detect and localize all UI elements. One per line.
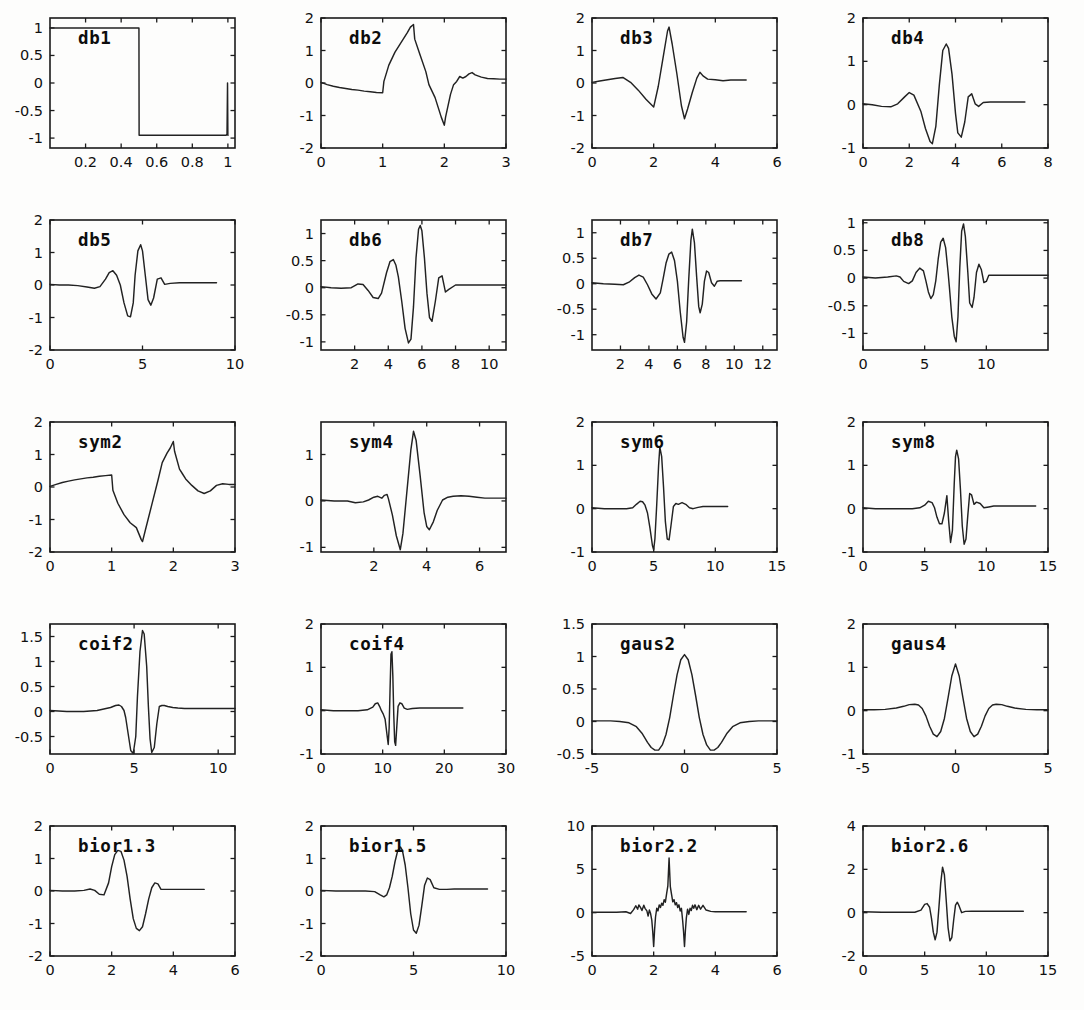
x-tick-label: 6 xyxy=(673,356,682,372)
y-tick-label: 0 xyxy=(576,75,585,91)
data-curve xyxy=(863,664,1048,737)
chart-panel-gaus4: -505-1012gaus4 xyxy=(813,606,1084,808)
x-tick-label: 0 xyxy=(45,558,54,574)
x-tick-label: 0 xyxy=(680,760,689,776)
chart-panel-db7: 24681012-1-0.500.51db7 xyxy=(542,202,813,404)
x-tick-label: 30 xyxy=(497,760,515,776)
y-tick-label: 0 xyxy=(576,276,585,292)
y-tick-label: -0.5 xyxy=(557,746,585,762)
x-tick-label: 10 xyxy=(706,558,724,574)
x-tick-label: 0 xyxy=(316,154,325,170)
plot-title-label: db4 xyxy=(891,28,924,48)
y-tick-label: 0 xyxy=(305,280,314,296)
y-tick-label: 0 xyxy=(847,703,856,719)
x-tick-label: 0 xyxy=(45,356,54,372)
plot-title-label: bior1.5 xyxy=(349,836,427,856)
data-curve xyxy=(50,245,217,317)
y-tick-label: 1 xyxy=(34,851,43,867)
y-tick-label: 0 xyxy=(34,883,43,899)
y-tick-label: 1 xyxy=(34,245,43,261)
chart-panel-coif2: 0510-0.500.511.5coif2 xyxy=(0,606,271,808)
y-tick-label: -1 xyxy=(571,544,585,560)
wavelet-plot-grid: 0.20.40.60.81-1-0.500.51db10123-2-1012db… xyxy=(0,0,1084,1010)
y-tick-label: -2 xyxy=(300,948,314,964)
x-tick-label: 8 xyxy=(1043,154,1052,170)
y-tick-label: 1 xyxy=(34,20,43,36)
x-tick-label: 0 xyxy=(858,154,867,170)
plot-title-label: sym4 xyxy=(349,432,394,452)
y-tick-label: -1 xyxy=(842,544,856,560)
x-tick-label: -5 xyxy=(856,760,870,776)
x-tick-label: 3 xyxy=(230,558,239,574)
chart-panel-sym2: 0123-2-1012sym2 xyxy=(0,404,271,606)
x-tick-label: 10 xyxy=(497,962,515,978)
y-tick-label: 2 xyxy=(34,818,43,834)
data-curve xyxy=(50,850,204,930)
x-tick-label: 2 xyxy=(169,558,178,574)
x-tick-label: 0.4 xyxy=(110,154,133,170)
x-tick-label: 6 xyxy=(772,962,781,978)
x-tick-label: 0 xyxy=(951,760,960,776)
data-curve xyxy=(50,28,228,135)
x-tick-label: 4 xyxy=(951,154,960,170)
y-tick-label: -0.5 xyxy=(286,307,314,323)
y-tick-label: 0 xyxy=(305,493,314,509)
y-tick-label: -0.5 xyxy=(828,298,856,314)
chart-panel-coif4: 0102030-1012coif4 xyxy=(271,606,542,808)
data-curve xyxy=(863,450,1036,544)
x-tick-label: 10 xyxy=(373,760,391,776)
x-tick-label: 5 xyxy=(138,356,147,372)
x-tick-label: 10 xyxy=(977,558,995,574)
y-tick-label: 2 xyxy=(34,414,43,430)
y-tick-label: 1 xyxy=(305,851,314,867)
x-tick-label: 4 xyxy=(422,558,431,574)
plot-title-label: sym2 xyxy=(78,432,123,452)
y-tick-label: -1 xyxy=(842,746,856,762)
y-tick-label: 0.5 xyxy=(20,679,43,695)
y-tick-label: 1 xyxy=(847,659,856,675)
plot-title-label: db6 xyxy=(349,230,382,250)
y-tick-label: -1 xyxy=(29,130,43,146)
x-tick-label: 2 xyxy=(905,154,914,170)
y-tick-label: -1 xyxy=(300,539,314,555)
y-tick-label: -2 xyxy=(571,140,585,156)
y-tick-label: 1.5 xyxy=(562,616,585,632)
x-tick-label: 10 xyxy=(977,356,995,372)
data-curve xyxy=(321,847,488,933)
y-tick-label: 0 xyxy=(305,703,314,719)
y-tick-label: 1 xyxy=(305,43,314,59)
x-tick-label: -5 xyxy=(585,760,599,776)
y-tick-label: -1 xyxy=(300,334,314,350)
x-tick-label: 10 xyxy=(977,962,995,978)
x-tick-label: 5 xyxy=(409,962,418,978)
x-tick-label: 15 xyxy=(768,558,786,574)
y-tick-label: 0.5 xyxy=(291,253,314,269)
y-tick-label: 0 xyxy=(34,704,43,720)
chart-panel-db6: 246810-1-0.500.51db6 xyxy=(271,202,542,404)
y-tick-label: 2 xyxy=(305,616,314,632)
y-tick-label: 0 xyxy=(34,479,43,495)
y-tick-label: -1 xyxy=(300,746,314,762)
plot-title-label: db8 xyxy=(891,230,924,250)
plot-title-label: gaus2 xyxy=(620,634,676,654)
chart-panel-db1: 0.20.40.60.81-1-0.500.51db1 xyxy=(0,0,271,202)
y-tick-label: 0 xyxy=(847,905,856,921)
y-tick-label: 0.5 xyxy=(833,242,856,258)
y-tick-label: -0.5 xyxy=(15,103,43,119)
plot-title-label: bior2.2 xyxy=(620,836,698,856)
x-tick-label: 0 xyxy=(316,962,325,978)
x-tick-label: 6 xyxy=(475,558,484,574)
x-tick-label: 4 xyxy=(644,356,653,372)
y-tick-label: 1 xyxy=(576,457,585,473)
y-tick-label: 0.5 xyxy=(562,250,585,266)
y-tick-label: -2 xyxy=(29,948,43,964)
y-tick-label: 0 xyxy=(576,501,585,517)
x-tick-label: 2 xyxy=(350,356,359,372)
y-tick-label: 0 xyxy=(576,714,585,730)
y-tick-label: -2 xyxy=(842,948,856,964)
x-tick-label: 5 xyxy=(1043,760,1052,776)
y-tick-label: 1 xyxy=(847,457,856,473)
y-tick-label: 2 xyxy=(847,10,856,26)
data-curve xyxy=(592,27,746,119)
chart-panel-bior1-3: 0246-2-1012bior1.3 xyxy=(0,808,271,1010)
